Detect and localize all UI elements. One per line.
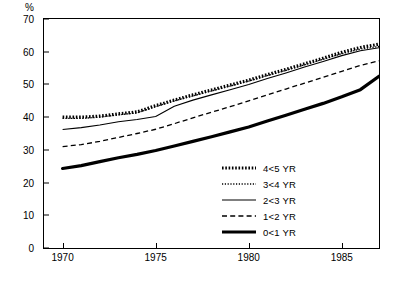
series-line-2-3-yr — [63, 48, 379, 130]
y-tick-mark — [44, 182, 49, 183]
y-tick-mark — [44, 215, 49, 216]
y-tick-mark — [44, 149, 49, 150]
y-tick-label: 50 — [0, 79, 34, 90]
line-chart: % 010203040506070 1970197519801985 4<5 Y… — [0, 0, 399, 295]
series-line-3-4-yr — [63, 46, 379, 118]
legend-label: 2<3 YR — [263, 195, 296, 206]
x-tick-mark — [63, 243, 64, 248]
y-tick-mark — [44, 84, 49, 85]
series-line-4-5-yr — [63, 44, 379, 117]
x-tick-mark — [342, 243, 343, 248]
legend-swatch-1-2-yr — [222, 211, 256, 221]
x-tick-mark — [156, 243, 157, 248]
x-tick-label: 1985 — [331, 252, 353, 263]
legend-swatch-0-1-yr — [222, 227, 256, 237]
y-tick-label: 20 — [0, 177, 34, 188]
series-line-0-1-yr — [63, 76, 379, 168]
y-tick-label: 40 — [0, 112, 34, 123]
legend-label: 0<1 YR — [263, 227, 296, 238]
legend-label: 3<4 YR — [263, 179, 296, 190]
y-tick-label: 0 — [0, 243, 34, 254]
x-tick-label: 1970 — [51, 252, 73, 263]
x-tick-label: 1980 — [238, 252, 260, 263]
legend-item: 1<2 YR — [222, 208, 352, 224]
legend: 4<5 YR3<4 YR2<3 YR1<2 YR0<1 YR — [222, 160, 352, 240]
y-axis-unit-label: % — [25, 2, 34, 13]
x-tick-label: 1975 — [145, 252, 167, 263]
legend-label: 1<2 YR — [263, 211, 296, 222]
legend-swatch-4-5-yr — [222, 163, 256, 173]
y-tick-label: 60 — [0, 46, 34, 57]
legend-item: 3<4 YR — [222, 176, 352, 192]
y-tick-mark — [44, 19, 49, 20]
legend-swatch-3-4-yr — [222, 179, 256, 189]
legend-label: 4<5 YR — [263, 163, 296, 174]
y-tick-label: 30 — [0, 144, 34, 155]
y-tick-mark — [44, 248, 49, 249]
legend-item: 0<1 YR — [222, 224, 352, 240]
legend-item: 4<5 YR — [222, 160, 352, 176]
y-tick-mark — [44, 117, 49, 118]
y-tick-label: 70 — [0, 14, 34, 25]
x-tick-mark — [249, 243, 250, 248]
y-tick-label: 10 — [0, 210, 34, 221]
legend-item: 2<3 YR — [222, 192, 352, 208]
legend-swatch-2-3-yr — [222, 195, 256, 205]
y-tick-mark — [44, 51, 49, 52]
